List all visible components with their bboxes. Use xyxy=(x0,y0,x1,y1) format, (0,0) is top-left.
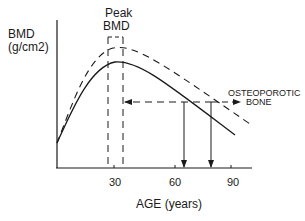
x-tick-label-90: 90 xyxy=(227,176,239,188)
x-axis-label: AGE (years) xyxy=(136,198,202,211)
x-tick-label-30: 30 xyxy=(109,176,121,188)
bmd-chart xyxy=(0,0,305,221)
peak-bmd-label-line2: BMD xyxy=(103,20,130,33)
osteoporotic-label-line2: BONE xyxy=(246,97,272,107)
dashed-bmd-curve xyxy=(57,47,250,143)
y-axis-label-line2: (g/cm2) xyxy=(8,41,49,54)
x-tick-label-60: 60 xyxy=(169,176,181,188)
